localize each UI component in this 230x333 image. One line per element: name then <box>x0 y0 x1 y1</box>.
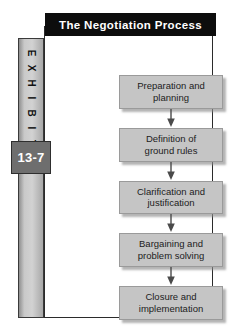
exhibit-label: E X H I B I T <box>27 45 34 150</box>
flow-box-line-2: justification <box>148 197 195 208</box>
flow-box-label: Closure and implementation <box>139 291 203 315</box>
flow-box-line-1: Closure and <box>145 291 196 302</box>
flow-step-5: Closure and implementation <box>117 286 230 320</box>
flow-box-line-1: Preparation and <box>137 80 205 91</box>
figure-panel: Preparation and planning Definition of g… <box>44 26 213 318</box>
flow-box-closure-and-implementation: Closure and implementation <box>119 286 223 320</box>
exhibit-letter-i1: I <box>26 96 36 99</box>
flow-arrow-2-to-3 <box>119 162 223 181</box>
flow-box-clarification-and-justification: Clarification and justification <box>119 181 223 215</box>
exhibit-letter-h: H <box>26 79 36 86</box>
figure-title-bar: The Negotiation Process <box>45 13 216 36</box>
exhibit-letter-x: X <box>26 64 36 71</box>
flow-box-line-2: implementation <box>139 303 203 314</box>
exhibit-number-badge: 13-7 <box>11 141 51 174</box>
flow-box-line-1: Bargaining and <box>139 238 203 249</box>
flow-box-preparation-and-planning: Preparation and planning <box>119 75 223 109</box>
exhibit-letter-i2: I <box>26 126 36 129</box>
flow-box-definition-of-ground-rules: Definition of ground rules <box>119 128 223 162</box>
flow-step-2: Definition of ground rules <box>117 128 230 162</box>
flow-box-label: Preparation and planning <box>137 80 205 104</box>
exhibit-tab: E X H I B I T <box>18 38 44 318</box>
flow-arrow-4-to-5 <box>119 267 223 286</box>
flow-step-1: Preparation and planning <box>117 75 230 109</box>
flow-box-label: Clarification and justification <box>137 186 205 210</box>
flow-box-line-1: Clarification and <box>137 186 205 197</box>
flow-step-3: Clarification and justification <box>117 181 230 215</box>
exhibit-number-text: 13-7 <box>18 150 45 165</box>
flow-arrow-1-to-2 <box>119 109 223 128</box>
flow-box-line-2: planning <box>153 92 189 103</box>
exhibit-figure: Preparation and planning Definition of g… <box>0 0 230 333</box>
exhibit-letter-e: E <box>26 49 36 56</box>
flow-arrow-3-to-4 <box>119 214 223 233</box>
flow-step-4: Bargaining and problem solving <box>117 233 230 267</box>
page-title: The Negotiation Process <box>59 19 202 31</box>
flow-box-line-1: Definition of <box>146 133 196 144</box>
flowchart: Preparation and planning Definition of g… <box>117 75 230 320</box>
flow-box-line-2: problem solving <box>138 250 205 261</box>
flow-box-bargaining-and-problem-solving: Bargaining and problem solving <box>119 233 223 267</box>
flow-box-line-2: ground rules <box>145 145 198 156</box>
flow-box-label: Definition of ground rules <box>145 133 198 157</box>
flow-box-label: Bargaining and problem solving <box>138 238 205 262</box>
exhibit-letter-b: B <box>26 109 36 116</box>
